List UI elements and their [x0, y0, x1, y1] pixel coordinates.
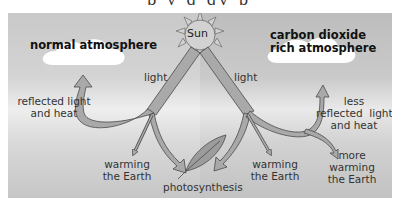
left-panel-title: normal atmosphere [30, 39, 157, 52]
left-warming-line1: warming [102, 158, 152, 170]
left-reflected-label: reflected light and heat [14, 95, 94, 119]
right-light-label: light [234, 71, 257, 83]
right-reflected-line1: less [316, 95, 392, 107]
right-panel-title: carbon dioxide rich atmosphere [270, 29, 360, 55]
left-reflected-line1: reflected light [14, 95, 94, 107]
right-reflected-line2: reflected light [316, 107, 392, 119]
right-reflected-label: less reflected light and heat [316, 95, 392, 131]
sun-label: Sun [187, 27, 208, 40]
right-title-line2: rich atmosphere [270, 42, 360, 55]
cropped-caption-text: p y g gy p [0, 0, 398, 5]
left-warming-label: warming the Earth [102, 158, 152, 182]
more-warming-line1: more [322, 149, 382, 161]
more-warming-line2: warming [322, 161, 382, 173]
photosynthesis-label: photosynthesis [163, 181, 243, 193]
left-reflected-line2: and heat [14, 107, 94, 119]
left-warming-line2: the Earth [102, 170, 152, 182]
right-reflected-line3: and heat [316, 119, 392, 131]
right-warming-line1: warming [250, 158, 300, 170]
more-warming-label: more warming the Earth [322, 149, 382, 185]
right-warming-label: warming the Earth [250, 158, 300, 182]
more-warming-line3: the Earth [322, 173, 382, 185]
right-warming-line2: the Earth [250, 170, 300, 182]
diagram-frame: normal atmosphere carbon dioxide rich at… [8, 13, 392, 198]
left-light-label: light [144, 71, 167, 83]
